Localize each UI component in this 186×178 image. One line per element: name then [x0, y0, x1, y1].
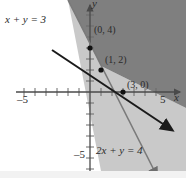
- x-tick-label-5: 5: [160, 94, 166, 105]
- point-3-0: [120, 89, 125, 94]
- x-axis-label: x: [174, 92, 179, 103]
- point-label-0-4: (0, 4): [94, 25, 116, 35]
- graph-figure: x + y = 3 2x + y = 4 (0, 4) (1, 2) (3, 0…: [0, 0, 186, 178]
- equation-label-2x-plus-y-equals-4: 2x + y = 4: [96, 145, 143, 156]
- point-label-1-2: (1, 2): [105, 55, 127, 65]
- equation-label-x-plus-y-equals-3: x + y = 3: [5, 14, 46, 25]
- point-1-2: [98, 67, 103, 72]
- bottom-edge-strip: [0, 171, 186, 178]
- coordinate-plane-svg: [0, 0, 186, 178]
- y-axis-label: y: [92, 0, 97, 9]
- y-tick-label-negative-5: –5: [74, 149, 85, 160]
- x-tick-label-negative-5: –5: [17, 94, 28, 105]
- point-label-3-0: (3, 0): [127, 80, 149, 90]
- point-0-4: [87, 45, 92, 50]
